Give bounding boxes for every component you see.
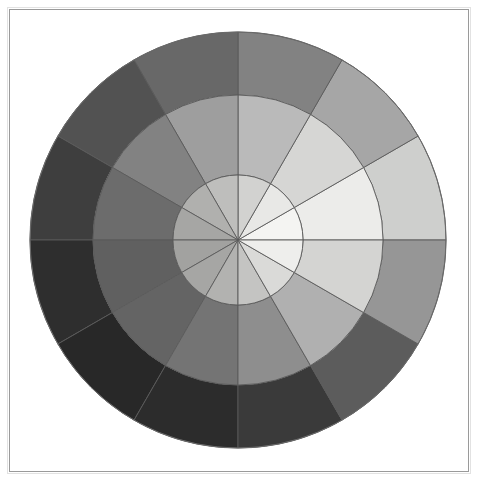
color-wheel-segments: [30, 32, 446, 448]
color-wheel-figure: [0, 0, 480, 483]
screenshot-canvas: [0, 0, 480, 483]
color-wheel-svg: [0, 0, 480, 483]
